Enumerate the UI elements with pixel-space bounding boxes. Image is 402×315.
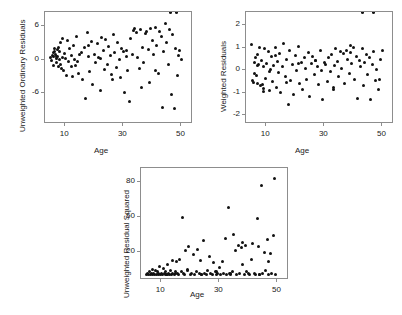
- data-point: [361, 47, 364, 50]
- data-point: [199, 259, 202, 262]
- data-point: [175, 12, 178, 14]
- panel-c-x-axis-label: Age: [190, 290, 204, 299]
- data-point: [352, 46, 355, 49]
- data-point: [287, 103, 290, 106]
- data-point: [274, 54, 277, 57]
- data-point: [260, 59, 263, 62]
- data-point: [87, 44, 90, 47]
- data-point: [256, 64, 259, 67]
- data-point: [381, 49, 384, 52]
- data-point: [262, 65, 265, 68]
- x-tick-label: 30: [311, 129, 335, 138]
- data-point: [183, 273, 186, 276]
- data-point: [305, 78, 308, 81]
- data-point: [300, 61, 303, 64]
- data-point: [301, 88, 304, 91]
- data-point: [147, 48, 150, 51]
- panel-b: Weighted Residuals b) Age 210-1-2103050: [201, 0, 402, 160]
- data-point: [112, 33, 115, 36]
- data-point: [113, 51, 116, 54]
- y-tick-mark: [41, 59, 44, 60]
- data-point: [133, 27, 136, 30]
- data-point: [356, 97, 359, 100]
- x-tick-mark: [265, 123, 266, 126]
- data-point: [187, 245, 190, 248]
- panel-b-y-axis-label: Weighted Residuals: [219, 41, 228, 112]
- data-point: [294, 54, 297, 57]
- panel-a-x-axis-label: Age: [94, 146, 108, 155]
- data-point: [81, 78, 84, 81]
- data-point: [260, 184, 263, 187]
- data-point: [336, 60, 339, 63]
- data-point: [154, 26, 157, 29]
- data-point: [83, 46, 86, 49]
- data-point: [151, 39, 154, 42]
- y-tick-mark: [137, 216, 140, 217]
- data-point: [271, 80, 274, 83]
- data-point: [349, 51, 352, 54]
- data-point: [181, 216, 184, 219]
- data-point: [168, 28, 171, 31]
- data-point: [263, 47, 266, 50]
- x-tick-label: 50: [168, 129, 192, 138]
- data-point: [256, 217, 259, 220]
- data-point: [372, 12, 375, 14]
- x-tick-label: 10: [148, 285, 172, 294]
- data-point: [167, 63, 170, 66]
- data-point: [154, 69, 157, 72]
- data-point: [123, 91, 126, 94]
- panel-c-plot-area: [140, 167, 288, 279]
- data-point: [288, 49, 291, 52]
- panel-b-x-axis-label: Age: [295, 146, 309, 155]
- data-point: [324, 63, 327, 66]
- data-point: [327, 56, 330, 59]
- data-point: [70, 65, 73, 68]
- y-tick-label: -6: [18, 87, 39, 96]
- data-point: [192, 253, 195, 256]
- data-point: [71, 75, 74, 78]
- data-point: [141, 46, 144, 49]
- data-point: [266, 238, 269, 241]
- data-point: [174, 47, 177, 50]
- data-point: [314, 59, 317, 62]
- y-tick-label: 20: [114, 246, 135, 255]
- data-point: [281, 65, 284, 68]
- data-point: [379, 58, 382, 61]
- data-point: [264, 269, 267, 272]
- data-point: [366, 73, 369, 76]
- data-point: [244, 244, 247, 247]
- data-point: [176, 74, 179, 77]
- y-tick-label: 0: [219, 64, 240, 73]
- data-point: [131, 53, 134, 56]
- data-point: [178, 49, 181, 52]
- data-point: [107, 45, 110, 48]
- data-point: [135, 31, 138, 34]
- data-point: [140, 86, 143, 89]
- data-point: [68, 47, 71, 50]
- data-point: [241, 263, 244, 266]
- data-point: [158, 265, 161, 268]
- data-point: [63, 52, 66, 55]
- y-tick-label: -2: [219, 109, 240, 118]
- panel-b-points: [246, 12, 392, 122]
- data-point: [149, 27, 152, 30]
- data-point: [265, 62, 268, 65]
- panel-a: Unweighted Ordinary Residuals a) Age 60-…: [0, 0, 201, 160]
- x-tick-mark: [160, 279, 161, 282]
- data-point: [275, 86, 278, 89]
- data-point: [196, 248, 199, 251]
- data-point: [177, 54, 180, 57]
- data-point: [165, 41, 168, 44]
- data-point: [361, 12, 364, 14]
- data-point: [297, 62, 300, 65]
- data-point: [378, 78, 381, 81]
- data-point: [157, 72, 160, 75]
- data-point: [316, 65, 319, 68]
- data-point: [87, 55, 90, 58]
- data-point: [160, 35, 163, 38]
- panel-c-points: [141, 168, 287, 278]
- data-point: [258, 46, 261, 49]
- data-point: [103, 68, 106, 71]
- data-point: [343, 82, 346, 85]
- data-point: [263, 251, 266, 254]
